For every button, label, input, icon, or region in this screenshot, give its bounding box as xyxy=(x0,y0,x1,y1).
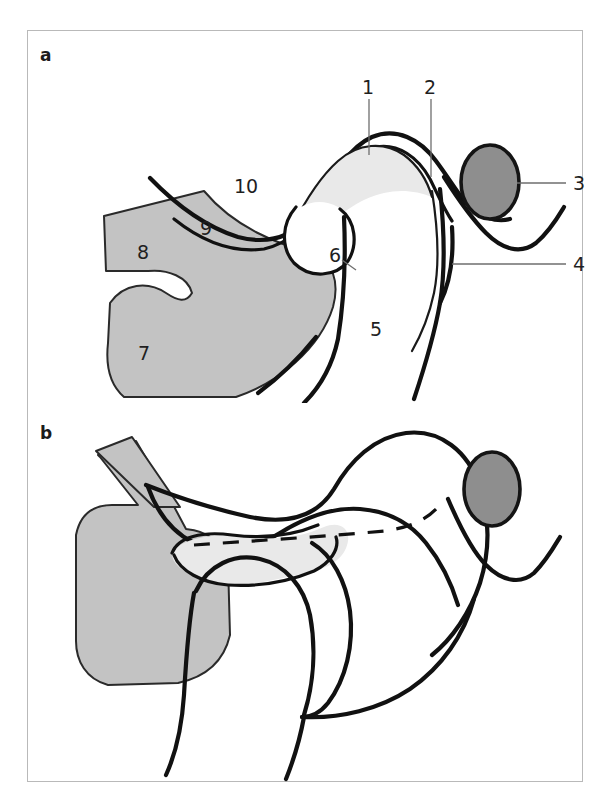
label-1: 1 xyxy=(362,78,374,97)
posterior-soft-tissue-contour-b xyxy=(302,599,474,717)
panel-a-letter: a xyxy=(40,47,51,64)
panel-b-drawing xyxy=(28,403,584,783)
panel-b: b xyxy=(28,403,584,783)
label-3: 3 xyxy=(573,174,585,193)
label-8: 8 xyxy=(137,243,149,262)
panel-a: a xyxy=(28,31,584,403)
label-2: 2 xyxy=(424,78,436,97)
leader-line-6 xyxy=(342,260,356,270)
figure-root: a xyxy=(0,0,600,798)
figure-border-frame: a xyxy=(27,30,583,782)
panel-b-letter: b xyxy=(40,425,52,442)
label-10: 10 xyxy=(234,177,258,196)
label-5: 5 xyxy=(370,320,382,339)
panel-a-leader-lines xyxy=(28,31,584,403)
label-9: 9 xyxy=(200,219,212,238)
label-6: 6 xyxy=(329,246,341,265)
label-7: 7 xyxy=(138,344,150,363)
ear-lobule-ellipse-b xyxy=(464,452,520,526)
mandibular-ramus-posterior-b xyxy=(286,717,304,779)
label-4: 4 xyxy=(573,255,585,274)
